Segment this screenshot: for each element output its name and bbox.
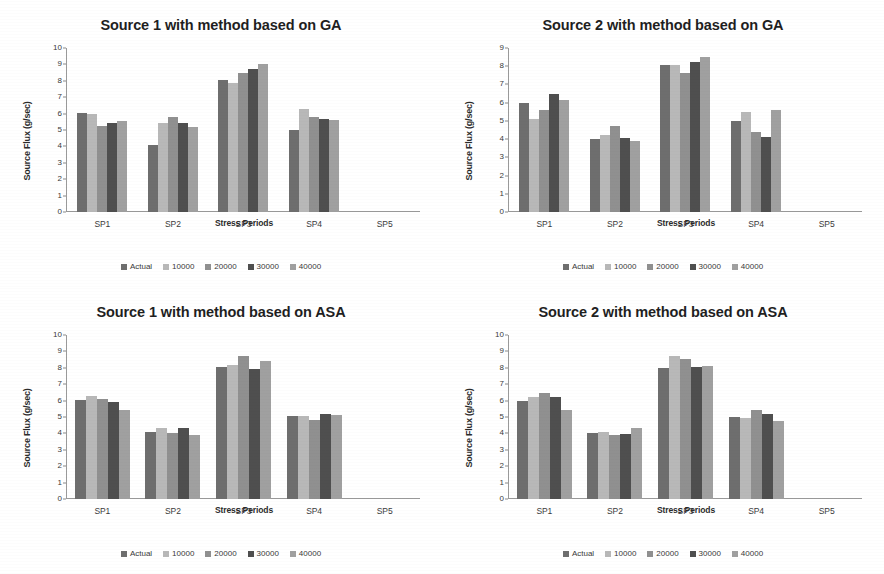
- legend-item[interactable]: 20000: [647, 262, 678, 271]
- bar[interactable]: [309, 117, 319, 212]
- bar[interactable]: [690, 62, 700, 212]
- legend-item[interactable]: 10000: [163, 262, 194, 271]
- bar[interactable]: [762, 414, 773, 499]
- bar[interactable]: [751, 410, 762, 499]
- bar[interactable]: [329, 120, 339, 212]
- legend-item[interactable]: 10000: [605, 549, 636, 558]
- bar[interactable]: [117, 121, 127, 212]
- bar[interactable]: [77, 113, 87, 212]
- bar[interactable]: [238, 73, 248, 212]
- bar[interactable]: [260, 361, 271, 499]
- bar[interactable]: [75, 400, 86, 499]
- bar[interactable]: [119, 410, 130, 499]
- bar[interactable]: [249, 369, 260, 499]
- bar[interactable]: [550, 397, 561, 500]
- bar[interactable]: [598, 432, 609, 499]
- bar[interactable]: [539, 393, 550, 499]
- legend-item[interactable]: 10000: [163, 549, 194, 558]
- bar[interactable]: [258, 64, 268, 212]
- bar[interactable]: [86, 396, 97, 499]
- bar[interactable]: [158, 123, 168, 212]
- legend-item[interactable]: 30000: [690, 549, 721, 558]
- bar[interactable]: [691, 367, 702, 499]
- bar[interactable]: [108, 402, 119, 499]
- bar[interactable]: [228, 83, 238, 212]
- bar[interactable]: [549, 94, 559, 212]
- legend-item[interactable]: Actual: [563, 549, 594, 558]
- bar[interactable]: [539, 110, 549, 212]
- bar[interactable]: [248, 69, 258, 213]
- legend-item[interactable]: 10000: [605, 262, 636, 271]
- bar[interactable]: [700, 57, 710, 212]
- bar[interactable]: [87, 114, 97, 212]
- bar[interactable]: [320, 414, 331, 499]
- bar[interactable]: [561, 410, 572, 499]
- bar[interactable]: [331, 415, 342, 499]
- bar[interactable]: [107, 123, 117, 212]
- bar[interactable]: [600, 135, 610, 212]
- bar[interactable]: [298, 416, 309, 499]
- legend-item[interactable]: Actual: [563, 262, 594, 271]
- legend-item[interactable]: 20000: [205, 262, 236, 271]
- bar[interactable]: [771, 110, 781, 212]
- bar[interactable]: [702, 366, 713, 499]
- bar[interactable]: [168, 117, 178, 212]
- bar[interactable]: [319, 119, 329, 212]
- bar[interactable]: [559, 100, 569, 212]
- bar[interactable]: [218, 80, 228, 212]
- bar[interactable]: [289, 130, 299, 212]
- bar[interactable]: [529, 119, 539, 212]
- bar[interactable]: [620, 434, 631, 499]
- legend-item[interactable]: 30000: [248, 262, 279, 271]
- bar[interactable]: [680, 359, 691, 499]
- bar[interactable]: [528, 397, 539, 499]
- legend-item[interactable]: 40000: [732, 549, 763, 558]
- bar[interactable]: [609, 435, 620, 499]
- bar[interactable]: [189, 435, 200, 499]
- bar[interactable]: [188, 127, 198, 212]
- bar[interactable]: [751, 132, 761, 212]
- bar[interactable]: [97, 126, 107, 212]
- bar[interactable]: [216, 367, 227, 499]
- bar[interactable]: [178, 123, 188, 212]
- legend-item[interactable]: 40000: [290, 262, 321, 271]
- bar[interactable]: [97, 399, 108, 499]
- legend-item[interactable]: 20000: [647, 549, 678, 558]
- bar[interactable]: [519, 103, 529, 212]
- bar[interactable]: [658, 368, 669, 499]
- bar[interactable]: [729, 417, 740, 499]
- bar[interactable]: [590, 139, 600, 212]
- bar[interactable]: [287, 416, 298, 499]
- bar[interactable]: [517, 401, 528, 499]
- bar[interactable]: [773, 421, 784, 499]
- legend-item[interactable]: 40000: [732, 262, 763, 271]
- bar[interactable]: [620, 138, 630, 212]
- bar[interactable]: [680, 73, 690, 212]
- legend-item[interactable]: 40000: [290, 549, 321, 558]
- bar[interactable]: [731, 121, 741, 212]
- bar[interactable]: [238, 356, 249, 500]
- bar[interactable]: [630, 141, 640, 212]
- bar[interactable]: [631, 428, 642, 499]
- legend-item[interactable]: Actual: [121, 549, 152, 558]
- bar[interactable]: [587, 433, 598, 499]
- bar[interactable]: [670, 65, 680, 212]
- bar[interactable]: [610, 126, 620, 212]
- bar[interactable]: [741, 112, 751, 212]
- bar[interactable]: [740, 418, 751, 499]
- bar[interactable]: [148, 145, 158, 212]
- bar[interactable]: [761, 137, 771, 212]
- bar[interactable]: [309, 420, 320, 499]
- bar[interactable]: [299, 109, 309, 212]
- bar[interactable]: [178, 428, 189, 499]
- bar[interactable]: [167, 433, 178, 499]
- legend-item[interactable]: 20000: [205, 549, 236, 558]
- bar[interactable]: [156, 428, 167, 499]
- bar[interactable]: [145, 432, 156, 499]
- legend-item[interactable]: Actual: [121, 262, 152, 271]
- bar[interactable]: [660, 65, 670, 212]
- legend-item[interactable]: 30000: [690, 262, 721, 271]
- legend-item[interactable]: 30000: [248, 549, 279, 558]
- bar[interactable]: [227, 365, 238, 499]
- bar[interactable]: [669, 356, 680, 499]
